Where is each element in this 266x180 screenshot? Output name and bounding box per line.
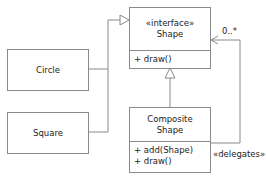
class-square: Square — [7, 112, 89, 154]
composite-op-add: + add(Shape) — [134, 145, 210, 156]
composite-name-line2: Shape — [157, 125, 184, 136]
composite-header: Composite Shape — [130, 108, 210, 142]
shape-name: Shape — [157, 29, 184, 40]
delegates-label: «delegates» — [213, 149, 265, 159]
shape-header: «interface» Shape — [130, 8, 210, 51]
square-name: Square — [33, 128, 63, 139]
generalization-arrow-left-icon — [120, 15, 129, 25]
composite-name-line1: Composite — [147, 114, 192, 125]
square-generalization-line — [88, 69, 108, 132]
class-composite-shape: Composite Shape + add(Shape) + draw() — [129, 107, 211, 173]
composite-op-draw: + draw() — [134, 156, 210, 167]
circle-generalization-line — [88, 20, 120, 69]
shape-operations: + draw() — [130, 51, 210, 68]
class-shape-interface: «interface» Shape + draw() — [129, 7, 211, 69]
shape-stereotype: «interface» — [146, 18, 194, 29]
circle-name: Circle — [36, 65, 60, 76]
multiplicity-label: 0..* — [222, 26, 237, 36]
shape-op-draw: + draw() — [134, 54, 210, 65]
delegates-association-line — [210, 40, 240, 143]
composite-operations: + add(Shape) + draw() — [130, 142, 210, 172]
generalization-arrow-bottom-icon — [165, 68, 175, 78]
class-circle: Circle — [7, 49, 89, 91]
